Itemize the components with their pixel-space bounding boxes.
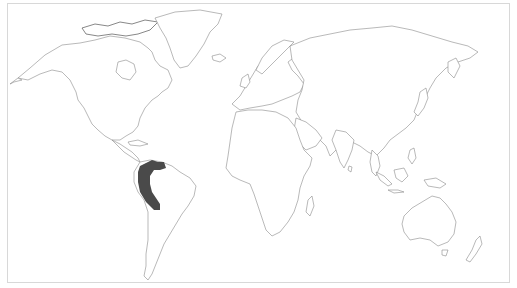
alaska-peninsula xyxy=(10,78,22,84)
sri-lanka xyxy=(348,166,352,172)
world-map xyxy=(0,0,517,288)
iceland xyxy=(212,54,226,62)
borneo xyxy=(394,168,408,182)
tasmania xyxy=(442,250,448,256)
madagascar xyxy=(306,196,314,216)
australia xyxy=(402,196,456,246)
new-zealand xyxy=(466,236,482,262)
new-guinea xyxy=(424,178,446,188)
java xyxy=(388,190,404,193)
north-america xyxy=(18,36,172,140)
caribbean xyxy=(128,140,148,146)
philippines xyxy=(408,148,416,164)
arctic-archipelago xyxy=(82,20,158,36)
sumatra xyxy=(376,172,392,186)
greenland xyxy=(155,10,222,68)
